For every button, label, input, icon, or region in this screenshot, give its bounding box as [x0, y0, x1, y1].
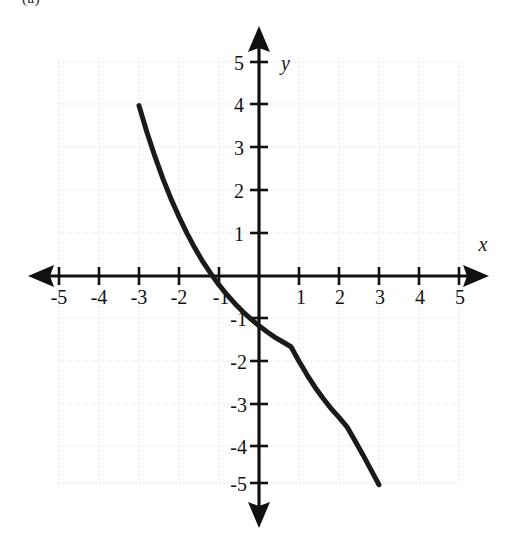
coordinate-plane-chart: -5 -4 -3 -2 -1 1 2 3 4 5 5 4 3 2 1 -1 -2… [0, 0, 517, 537]
y-tick-label: 2 [234, 180, 244, 202]
y-tick-label: 5 [234, 52, 244, 74]
y-tick-label: -3 [230, 394, 247, 416]
graph-figure: (a) [0, 0, 517, 537]
y-tick-labels: 5 4 3 2 1 -1 -2 -3 -4 -5 [230, 52, 247, 495]
x-axis-label: x [478, 233, 488, 255]
x-tick-label: -5 [51, 286, 68, 308]
y-tick-label: -4 [230, 436, 247, 458]
x-tick-label: 3 [375, 286, 385, 308]
y-tick-label: -2 [230, 351, 247, 373]
x-tick-label: 4 [415, 286, 425, 308]
x-tick-label: -3 [131, 286, 148, 308]
x-tick-label: 2 [335, 286, 345, 308]
x-tick-label: -4 [91, 286, 108, 308]
x-tick-label: 1 [296, 286, 306, 308]
y-tick-label: 1 [234, 223, 244, 245]
y-axis-label: y [279, 52, 290, 75]
y-tick-label: 4 [234, 94, 244, 116]
y-tick-label: -5 [230, 473, 247, 495]
x-tick-label: 5 [455, 286, 465, 308]
figure-corner-label: (a) [22, 0, 40, 6]
x-tick-label: -2 [171, 286, 188, 308]
y-tick-label: 3 [234, 137, 244, 159]
